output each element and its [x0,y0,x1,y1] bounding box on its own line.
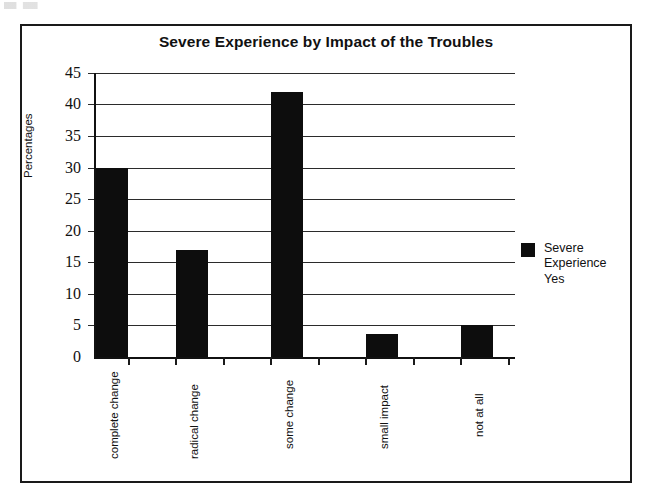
bar-some-change-fix [271,92,303,357]
bar-not-at-all [461,325,493,357]
y-axis-label-5: 5 [55,317,81,333]
bar-small-impact [366,334,398,357]
gridline-35 [95,136,515,137]
y-axis-label-0: 0 [55,349,81,365]
x-tick-2 [175,357,177,365]
gridline-40 [95,104,515,105]
x-tick-1 [128,357,130,365]
legend-swatch-severe-experience-yes [521,243,535,257]
gridline-15 [95,262,515,263]
x-tick-6 [365,357,367,365]
x-axis-label-some-change: some change [283,380,295,449]
legend: Severe Experience Yes [521,241,607,287]
x-tick-8 [460,357,462,365]
gridline-20 [95,231,515,232]
x-tick-4 [270,357,272,365]
y-axis-label-30: 30 [55,160,81,176]
y-axis-label-45: 45 [55,65,81,81]
x-axis-baseline [95,357,515,359]
scan-artifact [4,2,50,9]
x-axis-label-complete-change: complete change [108,371,120,459]
gridline-5 [95,325,515,326]
legend-label-severe-experience-yes: Severe Experience Yes [544,241,607,287]
y-axis-label-10: 10 [55,286,81,302]
y-axis-label-25: 25 [55,191,81,207]
x-axis-label-not-at-all: not at all [473,394,485,437]
gridline-10 [95,294,515,295]
y-axis-title: Percentages [22,113,34,178]
x-tick-3 [223,357,225,365]
x-tick-7 [413,357,415,365]
y-axis-label-35: 35 [55,128,81,144]
gridline-30 [95,168,515,169]
bar-complete-change [96,168,128,357]
x-axis-label-radical-change: radical change [188,384,200,459]
y-axis-label-15: 15 [55,254,81,270]
y-axis-label-20: 20 [55,223,81,239]
bar-radical-change [176,250,208,357]
x-tick-5 [318,357,320,365]
y-axis-label-40: 40 [55,96,81,112]
x-axis-label-small-impact: small impact [378,385,390,449]
chart-title: Severe Experience by Impact of the Troub… [22,33,630,51]
gridline-45 [95,73,515,74]
gridline-25 [95,199,515,200]
x-tick-9 [508,357,510,365]
